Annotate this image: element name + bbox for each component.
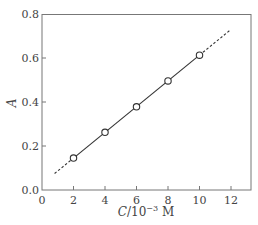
x-axis-ticks: 024681012 (39, 186, 239, 207)
x-tick-label: 12 (224, 194, 238, 207)
y-axis-label: A (5, 98, 19, 108)
y-tick-label: 0.6 (22, 52, 40, 65)
x-tick-label: 4 (102, 194, 109, 207)
y-tick-label: 0.0 (22, 184, 40, 197)
x-tick-label: 2 (70, 194, 77, 207)
y-tick-label: 0.8 (22, 8, 40, 21)
fit-lines (55, 31, 230, 174)
data-point (196, 52, 202, 58)
data-point (102, 129, 108, 135)
data-point (165, 78, 171, 84)
y-tick-label: 0.4 (22, 96, 40, 109)
data-point (133, 104, 139, 110)
chart: 024681012 0.00.20.40.60.8 A C/10−3 M (0, 0, 258, 225)
x-axis-label: C/10−3 M (118, 204, 174, 219)
y-tick-label: 0.2 (22, 140, 40, 153)
plot-frame (42, 15, 251, 191)
x-tick-label: 10 (193, 194, 207, 207)
fit-line-dashed (200, 31, 230, 55)
data-point (70, 155, 76, 161)
x-tick-label: 0 (39, 194, 46, 207)
